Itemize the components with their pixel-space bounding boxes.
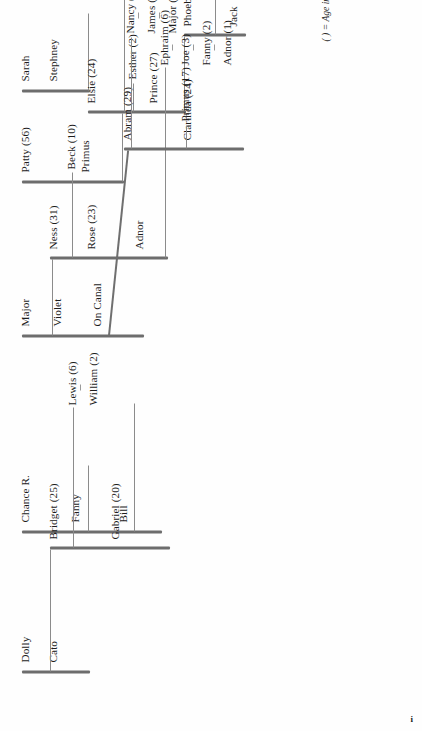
label-james: James (4) [146, 0, 157, 33]
label-major-elder: Major [20, 298, 31, 326]
sibling-tick-nancy-james [138, 12, 139, 18]
family-tree-chart: Sarah Stephney Patty (56) Primus Major V… [0, 0, 422, 731]
label-elsie: Elsie (24) [86, 58, 97, 103]
label-dolly: Dolly [20, 636, 31, 662]
connector-dolly-to-bridget [50, 549, 51, 671]
spine-sarah-stephney [22, 89, 90, 92]
spine-gabriel-bridget [50, 546, 170, 549]
connector-chance-to-rose [88, 465, 89, 531]
label-chance-r: Chance R. [20, 474, 31, 522]
label-fanny-young: Fanny (2) [201, 20, 212, 65]
label-lewis: Lewis (6) [67, 361, 78, 405]
chart-caption: ( ) = Age in 1830 [320, 0, 331, 41]
label-ness: Ness (31) [48, 205, 59, 249]
label-fanny-elder: Fanny [70, 494, 81, 522]
sibling-tick-fanny-adnor [214, 44, 215, 50]
sibling-tick-lewis-william [80, 384, 81, 390]
connector-clarinda-to-primus [186, 125, 187, 148]
page-folio: i [410, 714, 413, 724]
spine-ness-rose-adnor [50, 256, 168, 259]
label-rose: Rose (23) [86, 204, 97, 249]
connector-major-to-abram [108, 150, 129, 335]
label-ephraim: Ephraim (6) [159, 10, 170, 65]
label-primus-elder: Primus [80, 140, 91, 172]
label-nancy: Nancy (6) [125, 0, 136, 33]
connector-phoebe-to-sarah [215, 0, 216, 34]
sibling-tick-joe-fanny [193, 44, 194, 50]
spine-chance-fanny-bill [22, 530, 162, 533]
label-gabriel: Gabriel (20) [110, 483, 121, 539]
label-joe: Joe (3) [180, 34, 191, 65]
label-bridget: Bridget (25) [48, 483, 59, 539]
label-adnor-elder: Adnor [134, 220, 145, 249]
label-patty: Patty (56) [20, 127, 31, 172]
spine-elsie-prince [88, 110, 186, 113]
label-william: William (2) [88, 352, 99, 405]
spine-major-violet-oncanal [22, 334, 144, 337]
connector-abram-to-nancy-group [131, 37, 132, 148]
label-sarah: Sarah [20, 55, 31, 81]
label-beck: Beck (10) [66, 124, 77, 169]
chart-rotation-wrapper: Sarah Stephney Patty (56) Primus Major V… [0, 0, 422, 731]
connector-rose-to-ephraim-group [165, 67, 166, 257]
connector-bridget-to-lewis-group [73, 407, 74, 547]
chart-page: Sarah Stephney Patty (56) Primus Major V… [0, 0, 422, 731]
label-esther: Esther (2) [127, 34, 138, 79]
label-phoebe: Phoebe (21) [182, 0, 193, 26]
label-stephney: Stephney [48, 39, 59, 81]
label-adnor-young: Adnor (1) [222, 20, 233, 65]
spine-clarinda-abram [124, 147, 244, 150]
sibling-tick-ephraim-joe [172, 44, 173, 50]
connector-ness-to-beck [72, 172, 73, 257]
label-violet: Violet [52, 298, 63, 326]
label-on-canal: On Canal [92, 283, 103, 326]
connector-oncanal-to-ness [52, 259, 53, 335]
label-primus-young: Primus (17) [180, 67, 191, 121]
connector-bill-to-gabriel [134, 403, 135, 531]
spine-dolly-cato [22, 670, 90, 673]
